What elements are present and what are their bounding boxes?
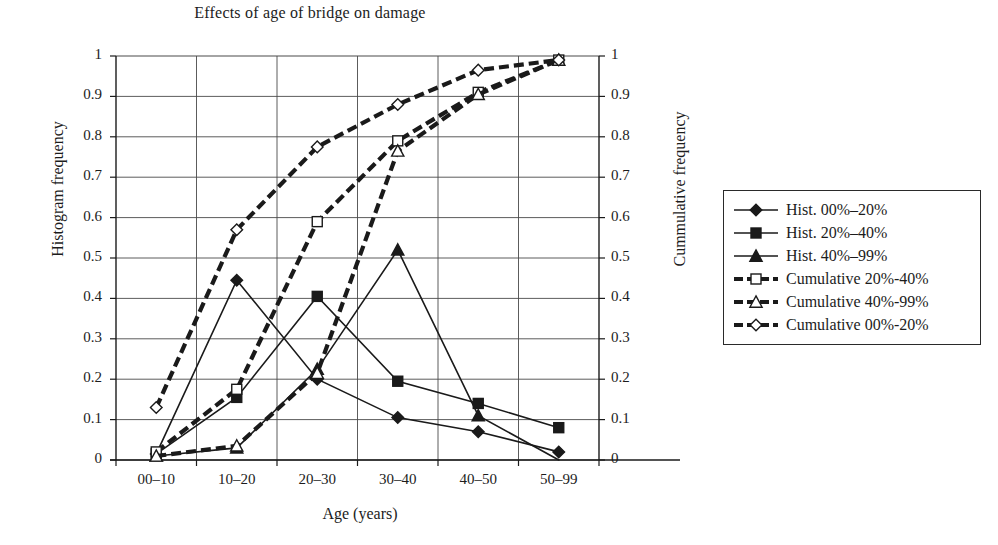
marker-filled-triangle: [392, 244, 404, 255]
marker-open-square: [312, 217, 322, 227]
legend-item[interactable]: Cumulative 20%-40%: [733, 267, 972, 290]
marker-filled-square: [554, 423, 564, 433]
gridlines: [116, 56, 599, 460]
legend-item-label: Hist. 00%–20%: [786, 202, 887, 218]
chart-figure: Effects of age of bridge on damage Histo…: [0, 0, 998, 545]
marker-filled-square: [751, 228, 761, 238]
marker-filled-diamond: [750, 204, 762, 216]
marker-open-square: [232, 384, 242, 394]
legend-item-label: Hist. 20%–40%: [786, 225, 887, 241]
legend-item[interactable]: Cumulative 40%-99%: [733, 290, 972, 313]
legend-item-label: Hist. 40%–99%: [786, 248, 887, 264]
axis-lines: [110, 56, 680, 466]
legend-item[interactable]: Hist. 20%–40%: [733, 221, 972, 244]
marker-filled-diamond: [472, 426, 484, 438]
marker-open-square: [751, 274, 761, 284]
legend-item-label: Cumulative 40%-99%: [786, 294, 929, 310]
legend-item[interactable]: Hist. 00%–20%: [733, 198, 972, 221]
marker-filled-square: [393, 376, 403, 386]
legend-item-label: Cumulative 20%-40%: [786, 271, 929, 287]
legend-item[interactable]: Cumulative 00%-20%: [733, 313, 972, 336]
legend-swatch-open-square: [733, 271, 779, 287]
legend-swatch-filled-diamond: [733, 202, 779, 218]
legend-swatch-filled-square: [733, 225, 779, 241]
legend-swatch-filled-triangle: [733, 248, 779, 264]
legend-swatch-open-diamond: [733, 317, 779, 333]
marker-filled-diamond: [553, 446, 565, 458]
legend-item-label: Cumulative 00%-20%: [786, 317, 929, 333]
marker-filled-triangle: [472, 409, 484, 420]
legend-item[interactable]: Hist. 40%–99%: [733, 244, 972, 267]
marker-open-diamond: [472, 64, 484, 76]
marker-filled-diamond: [392, 412, 404, 424]
marker-filled-square: [312, 291, 322, 301]
chart-legend: Hist. 00%–20%Hist. 20%–40%Hist. 40%–99%C…: [723, 190, 981, 345]
legend-swatch-open-triangle: [733, 294, 779, 310]
marker-open-diamond: [750, 319, 762, 331]
